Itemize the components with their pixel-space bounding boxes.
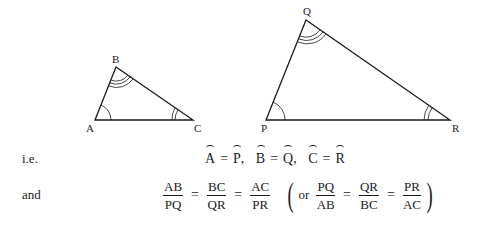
close-paren: ) <box>427 178 433 212</box>
label-c: C <box>194 123 201 134</box>
angle-a-hat: A <box>205 151 215 167</box>
angle-equalities: A=P, B=Q, C=R <box>205 151 345 167</box>
angle-b-hat: B <box>256 151 265 167</box>
label-a: A <box>86 123 94 134</box>
angle-p-hat: P <box>233 151 241 167</box>
angle-c-arc <box>175 110 178 120</box>
angle-q-arc <box>300 30 320 37</box>
triangle-pqr <box>266 20 450 120</box>
label-p: P <box>261 123 267 134</box>
triangle-abc <box>95 67 193 120</box>
angle-p-arc <box>273 102 285 120</box>
angle-q-hat: Q <box>283 151 293 167</box>
fraction-ab-pq: ABPQ <box>163 180 183 211</box>
and-label: and <box>22 188 41 201</box>
label-b: B <box>112 54 119 65</box>
label-q: Q <box>303 6 311 17</box>
angle-b-arc <box>111 75 128 81</box>
fraction-bc-qr: BCQR <box>207 180 226 211</box>
angle-r-hat: R <box>335 151 344 167</box>
side-ratios: ABPQ = BCQR = ACPR ( or PQAB = QRBC = PR… <box>160 178 435 212</box>
similar-triangles-figure <box>0 0 481 140</box>
fraction-qr-bc: QRBC <box>359 180 379 211</box>
fraction-pq-ab: PQAB <box>316 180 335 211</box>
angle-r-arc <box>428 108 432 120</box>
fraction-ac-pr: ACPR <box>250 180 270 211</box>
fraction-pr-ac: PRAC <box>403 180 421 211</box>
angle-a-arc <box>101 105 111 120</box>
or-label: or <box>299 187 310 203</box>
label-r: R <box>452 123 459 134</box>
angle-c-hat: C <box>308 151 317 167</box>
ie-label: i.e. <box>22 152 38 165</box>
open-paren: ( <box>288 178 294 212</box>
